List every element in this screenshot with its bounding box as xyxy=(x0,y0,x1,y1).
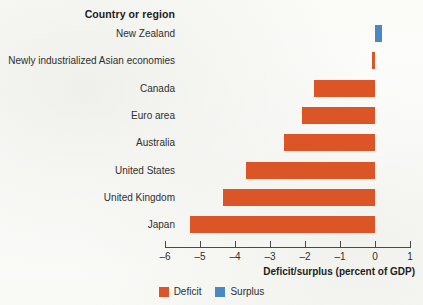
x-axis-line xyxy=(165,247,410,248)
bar-deficit xyxy=(223,189,375,206)
x-axis-tick-label: 0 xyxy=(360,251,390,262)
x-axis-tick-label: –1 xyxy=(325,251,355,262)
x-axis-tick-label: –3 xyxy=(255,251,285,262)
bar-deficit xyxy=(372,52,376,69)
x-axis-tick-label: –4 xyxy=(220,251,250,262)
x-axis-tick xyxy=(200,241,201,248)
legend-label: Deficit xyxy=(174,286,202,297)
x-axis-title: Deficit/surplus (percent of GDP) xyxy=(165,266,415,277)
bar-deficit xyxy=(302,107,376,124)
x-axis-tick-label: 1 xyxy=(395,251,423,262)
x-axis-tick xyxy=(305,241,306,248)
legend-swatch-icon xyxy=(159,287,169,297)
x-axis-tick xyxy=(375,241,376,248)
x-axis-tick-label: –6 xyxy=(150,251,180,262)
legend-label: Surplus xyxy=(230,286,264,297)
x-axis-tick xyxy=(410,241,411,248)
x-axis-tick xyxy=(165,241,166,248)
x-axis-tick-label: –2 xyxy=(290,251,320,262)
chart-legend: DeficitSurplus xyxy=(0,286,423,297)
x-axis-tick xyxy=(340,241,341,248)
legend-item: Surplus xyxy=(215,286,264,297)
bar-surplus xyxy=(375,25,382,42)
x-axis-tick xyxy=(270,241,271,248)
chart-figure: Country or region New ZealandNewly indus… xyxy=(0,0,423,305)
bar-deficit xyxy=(284,134,375,151)
bar-deficit xyxy=(190,216,376,233)
bar-deficit xyxy=(246,162,376,179)
bar-deficit xyxy=(314,80,375,97)
x-axis-tick-label: –5 xyxy=(185,251,215,262)
legend-swatch-icon xyxy=(215,287,225,297)
legend-item: Deficit xyxy=(159,286,202,297)
x-axis-tick xyxy=(235,241,236,248)
